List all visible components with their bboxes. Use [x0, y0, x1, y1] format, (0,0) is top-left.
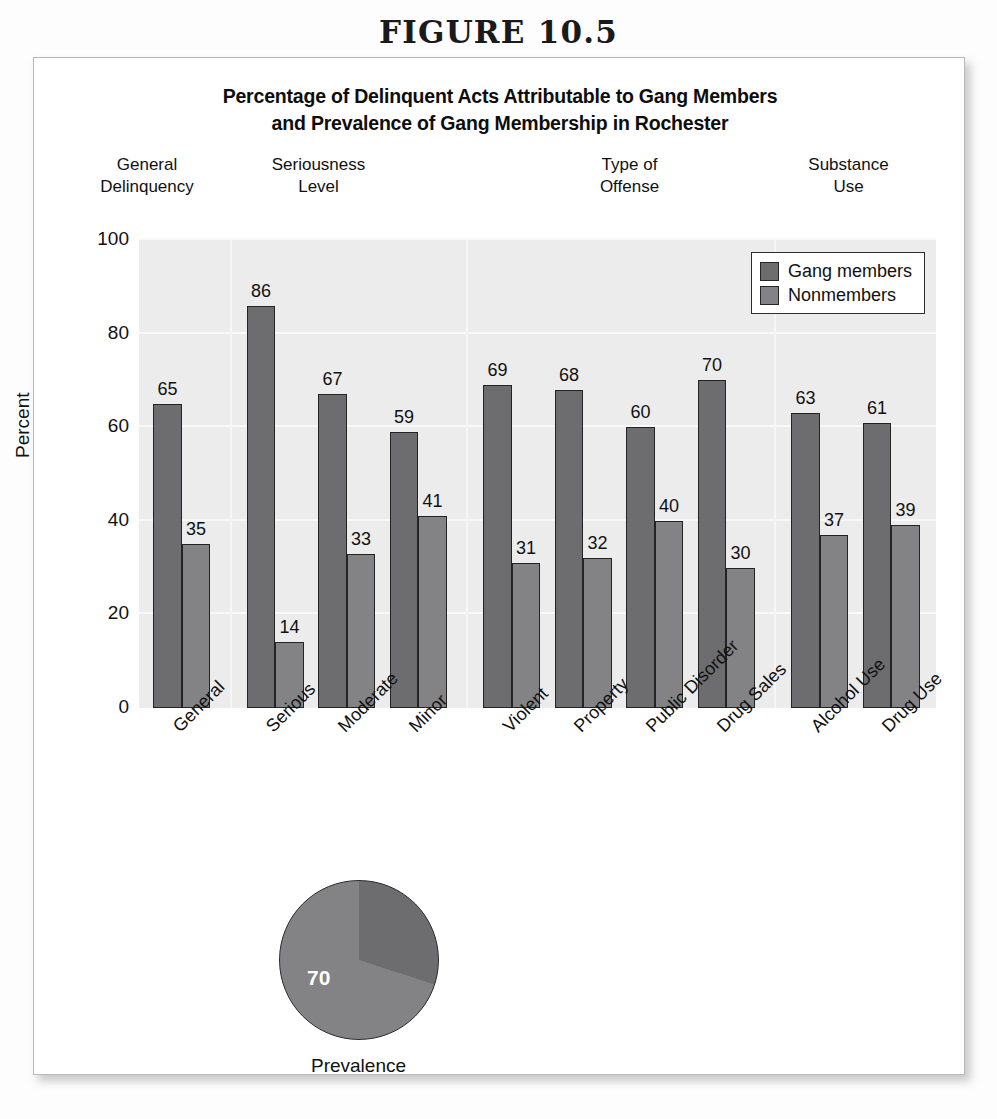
group-header-line-1: Type of: [537, 154, 722, 176]
group-header-line-2: Level: [226, 176, 411, 198]
bar-value-label: 32: [577, 533, 618, 554]
bar-value-label: 60: [620, 402, 661, 423]
chart-title-line-2: and Prevalence of Gang Membership in Roc…: [34, 110, 966, 137]
y-axis-tick-0: 0: [74, 696, 129, 718]
legend-item-gang-members: Gang members: [760, 259, 912, 283]
legend-label-gang-members: Gang members: [788, 261, 912, 282]
group-header-seriousness-level: Seriousness Level: [226, 154, 411, 198]
chart-title-line-1: Percentage of Delinquent Acts Attributab…: [223, 85, 778, 107]
bar-value-label: 40: [649, 496, 690, 517]
group-header-type-of-offense: Type of Offense: [537, 154, 722, 198]
y-axis-tick-80: 80: [74, 322, 129, 344]
legend-swatch-gang-members: [760, 262, 779, 281]
legend-swatch-nonmembers: [760, 286, 779, 305]
bar-nonmembers: [891, 525, 920, 708]
bar-value-label: 35: [176, 519, 217, 540]
bar-value-label: 41: [412, 491, 453, 512]
group-header-line-1: Substance: [756, 154, 941, 176]
pie-slice-label: 70: [307, 966, 330, 990]
bar-gang-members: [153, 404, 182, 708]
group-header-line-1: Seriousness: [226, 154, 411, 176]
bar-gang-members: [318, 394, 347, 708]
bar-gang-members: [791, 413, 820, 708]
bar-value-label: 86: [241, 281, 282, 302]
group-header-line-1: General: [52, 154, 242, 176]
bar-value-label: 61: [857, 398, 898, 419]
pie-slices: [279, 880, 439, 1040]
bar-value-label: 30: [720, 543, 761, 564]
gridline: [139, 238, 936, 240]
figure-page: FIGURE 10.5 Percentage of Delinquent Act…: [0, 0, 997, 1119]
bar-value-label: 31: [506, 538, 547, 559]
bar-value-label: 70: [692, 355, 733, 376]
bar-gang-members: [626, 427, 655, 708]
bar-value-label: 37: [814, 510, 855, 531]
bar-nonmembers: [418, 516, 447, 708]
plot-area: Gang members Nonmembers: [139, 240, 936, 708]
bar-gang-members: [390, 432, 419, 708]
y-axis-title: Percent: [12, 393, 34, 458]
bar-value-label: 69: [477, 360, 518, 381]
group-separator: [230, 240, 232, 708]
bar-nonmembers: [820, 535, 849, 708]
bar-gang-members: [247, 306, 276, 708]
y-axis-tick-100: 100: [74, 228, 129, 250]
bar-value-label: 59: [384, 407, 425, 428]
bar-value-label: 33: [341, 529, 382, 550]
bar-value-label: 65: [147, 379, 188, 400]
group-header-line-2: Delinquency: [52, 176, 242, 198]
prevalence-pie-chart: 70 Prevalence: [279, 880, 469, 1070]
bar-value-label: 67: [312, 369, 353, 390]
group-header-substance-use: Substance Use: [756, 154, 941, 198]
legend: Gang members Nonmembers: [751, 252, 925, 314]
pie-caption: Prevalence: [251, 1055, 466, 1077]
bar-value-label: 63: [785, 388, 826, 409]
legend-label-nonmembers: Nonmembers: [788, 285, 896, 306]
group-header-line-2: Offense: [537, 176, 722, 198]
legend-item-nonmembers: Nonmembers: [760, 283, 912, 307]
bar-value-label: 14: [269, 617, 310, 638]
bar-nonmembers: [655, 521, 684, 708]
y-axis-tick-20: 20: [74, 602, 129, 624]
y-axis-tick-40: 40: [74, 509, 129, 531]
bar-value-label: 39: [885, 500, 926, 521]
bar-value-label: 68: [549, 365, 590, 386]
figure-card: Percentage of Delinquent Acts Attributab…: [33, 57, 965, 1075]
chart-title: Percentage of Delinquent Acts Attributab…: [34, 83, 966, 137]
group-header-general-delinquency: General Delinquency: [52, 154, 242, 198]
figure-number-heading: FIGURE 10.5: [0, 14, 997, 50]
group-separator: [466, 240, 468, 708]
y-axis-tick-60: 60: [74, 415, 129, 437]
group-header-line-2: Use: [756, 176, 941, 198]
